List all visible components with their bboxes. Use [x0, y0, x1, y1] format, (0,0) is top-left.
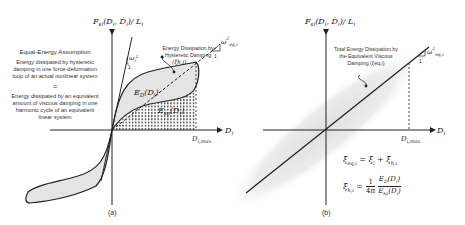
viscous-energy-cloud	[210, 30, 440, 225]
equation-hysteretic-damping: ξh,i = 14π ED(Di) Eso(Di)	[343, 175, 401, 199]
viscous-label-line1: Total Energy Dissipation by	[334, 46, 398, 52]
x-axis-label-b: Di	[436, 126, 445, 136]
panel-b: Fsi(Di, Ḋi)/ Li Di Di,max (b) ω2eq,i 1 T…	[210, 17, 445, 225]
assumption-line: Energy dissipated by an equivalent	[2, 93, 108, 100]
assumption-line: damping in one force-deformation	[2, 66, 108, 73]
svg-text:1: 1	[419, 58, 422, 64]
assumption-line: linear system	[2, 114, 108, 121]
equivalent-linear-line	[246, 47, 429, 193]
caption-b: (b)	[322, 209, 331, 217]
dmax-label-b: Di,max	[400, 135, 421, 144]
viscous-label-line2: the Equivalent Viscous	[339, 53, 393, 59]
equation-total-damping: ξeq,i = ξi + ξh,i	[343, 155, 397, 166]
hysteretic-symbol: (ξh,i)	[172, 59, 186, 66]
assumption-line: loop of an actual nonlinear system	[2, 73, 108, 80]
eq-stiffness-label-a: ω2eq,i	[221, 36, 238, 47]
assumption-title: Equal-Energy Assumption	[2, 48, 108, 55]
assumption-line: amount of viscous damping in one	[2, 100, 108, 107]
hysteretic-label-line1: Energy Dissipation by	[162, 45, 214, 51]
y-axis-label-a: Fsi(Di, Ḋi)/ Li	[92, 17, 143, 27]
assumption-block: Equal-Energy Assumption Energy dissipate…	[2, 48, 108, 121]
assumption-line: Energy dissipated by hysteretic	[2, 59, 108, 66]
caption-a: (a)	[108, 209, 117, 217]
svg-text:1: 1	[128, 64, 131, 70]
equals-sign: =	[2, 82, 108, 91]
viscous-label-line3: Damping (ξeq,i)	[347, 60, 384, 67]
y-axis-label-b: Fsi(Di, Ḋi)/ Li	[304, 17, 355, 27]
initial-stiffness-label: ωi2	[129, 54, 139, 63]
hysteresis-loop-lower	[26, 130, 112, 203]
svg-text:1: 1	[214, 53, 217, 59]
hysteretic-label-line2: Hysteretic Damping	[165, 52, 211, 58]
assumption-line: harmonic cycle of an equivalent	[2, 107, 108, 114]
x-axis-label-a: Di	[224, 126, 233, 136]
ed-label: ED(Di)	[133, 88, 159, 98]
dmax-label-a: Di,max	[191, 135, 212, 144]
eq-stiffness-label-b: ω2eq,i	[427, 46, 444, 57]
